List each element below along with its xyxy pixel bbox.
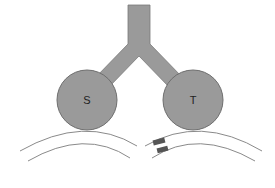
left-outer-arc (20, 131, 137, 151)
right-arcs (145, 131, 262, 161)
node-s-label: S (83, 94, 90, 106)
markers (153, 138, 169, 154)
node-t-label: T (190, 94, 197, 106)
diagram-canvas: S T (0, 0, 275, 188)
node-s: S (57, 70, 117, 130)
y-connector (95, 5, 183, 88)
left-arcs (20, 131, 137, 161)
connector-stem (95, 5, 183, 88)
right-inner-arc (152, 144, 255, 161)
node-t: T (163, 70, 223, 130)
left-inner-arc (28, 144, 130, 161)
